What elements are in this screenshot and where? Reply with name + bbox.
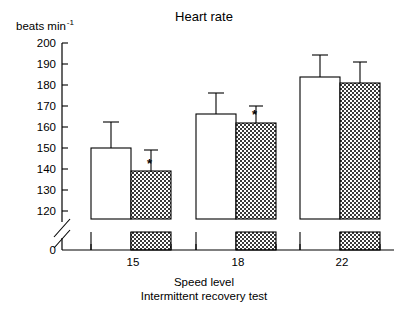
error-bar-hatched-18 <box>249 106 263 123</box>
bar-open-18-stub <box>196 232 236 250</box>
bar-open-22-stub <box>300 232 340 250</box>
error-bar-hatched-22 <box>353 62 367 83</box>
bar-hatched-15 <box>131 171 171 219</box>
bar-hatched-22 <box>340 83 380 219</box>
bar-hatched-15-stub <box>131 232 171 250</box>
bar-open-22 <box>300 77 340 219</box>
bar-hatched-22-stub <box>340 232 380 250</box>
bar-open-15 <box>91 148 131 219</box>
bar-group-15 <box>91 122 171 250</box>
error-bar-hatched-15 <box>144 150 158 171</box>
chart-plot-area <box>0 0 408 319</box>
bar-open-18 <box>196 114 236 219</box>
bar-hatched-18-stub <box>236 232 276 250</box>
bar-hatched-18 <box>236 123 276 219</box>
error-bar-open-18 <box>208 93 224 114</box>
error-bar-open-15 <box>103 122 119 148</box>
bar-group-18 <box>196 93 276 250</box>
bar-group-22 <box>300 55 380 250</box>
chart-figure: Heart rate beats min-1 200 190 180 170 1… <box>0 0 408 319</box>
bar-open-15-stub <box>91 232 131 250</box>
error-bar-open-22 <box>312 55 328 77</box>
